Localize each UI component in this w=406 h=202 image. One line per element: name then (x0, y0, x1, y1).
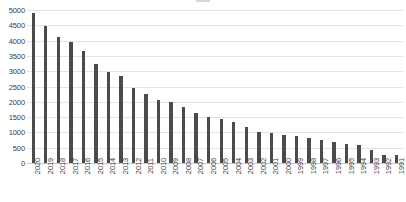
bar[interactable] (182, 107, 185, 163)
x-tick-slot: 2000 (278, 165, 291, 201)
bar-slot (115, 10, 128, 163)
bar-slot (27, 10, 40, 163)
bar[interactable] (157, 100, 160, 163)
bar[interactable] (207, 117, 210, 164)
bar-slot (278, 10, 291, 163)
bar-slot (253, 10, 266, 163)
bar[interactable] (82, 51, 85, 163)
x-tick-slot: 2020 (27, 165, 40, 201)
y-tick-label: 5000 (9, 6, 25, 15)
bar-slot (40, 10, 53, 163)
y-tick-label: 4500 (9, 21, 25, 30)
x-tick-slot: 2009 (165, 165, 178, 201)
x-tick-slot: 2002 (253, 165, 266, 201)
x-tick-slot: 2003 (240, 165, 253, 201)
y-tick-label: 1500 (9, 113, 25, 122)
cropped-title-remnant (196, 0, 210, 2)
bar[interactable] (107, 72, 110, 163)
bar-slot (215, 10, 228, 163)
x-axis: 2020201920182017201620152014201320122011… (27, 165, 403, 201)
y-tick-label: 2000 (9, 97, 25, 106)
x-tick-slot: 2005 (215, 165, 228, 201)
bar[interactable] (132, 88, 135, 163)
x-tick-slot: 2015 (90, 165, 103, 201)
x-tick-slot: 2019 (40, 165, 53, 201)
bar-slot (290, 10, 303, 163)
bar-slot (340, 10, 353, 163)
bar[interactable] (194, 113, 197, 163)
y-tick-label: 500 (13, 143, 25, 152)
x-tick-slot: 2010 (152, 165, 165, 201)
x-tick-slot: 2006 (202, 165, 215, 201)
x-tick-slot: 1991 (390, 165, 403, 201)
y-tick-label: 1000 (9, 128, 25, 137)
bar-slot (390, 10, 403, 163)
bar-chart: 0500100015002000250030003500400045005000… (0, 0, 406, 202)
x-tick-slot: 2004 (228, 165, 241, 201)
bar-slot (177, 10, 190, 163)
y-tick-label: 4000 (9, 36, 25, 45)
bar[interactable] (32, 13, 35, 163)
x-tick-slot: 1998 (303, 165, 316, 201)
bar-slot (240, 10, 253, 163)
x-tick-slot: 2012 (127, 165, 140, 201)
bar-slot (65, 10, 78, 163)
bar-slot (315, 10, 328, 163)
bar-slot (127, 10, 140, 163)
x-tick-slot: 2007 (190, 165, 203, 201)
bar-slot (353, 10, 366, 163)
y-tick-label: 3500 (9, 51, 25, 60)
bars-layer (27, 10, 403, 163)
x-tick-slot: 1994 (353, 165, 366, 201)
x-tick-slot: 1999 (290, 165, 303, 201)
x-tick-slot: 2018 (52, 165, 65, 201)
bar-slot (90, 10, 103, 163)
x-tick-slot: 2017 (65, 165, 78, 201)
x-tick-slot: 2016 (77, 165, 90, 201)
bar[interactable] (57, 37, 60, 163)
bar-slot (328, 10, 341, 163)
x-tick-slot: 1997 (315, 165, 328, 201)
x-tick-label: 1991 (397, 158, 406, 174)
x-tick-slot: 2013 (115, 165, 128, 201)
bar[interactable] (119, 76, 122, 163)
y-tick-label: 0 (21, 159, 25, 168)
bar-slot (190, 10, 203, 163)
bar-slot (365, 10, 378, 163)
x-tick-slot: 1996 (328, 165, 341, 201)
bar-slot (202, 10, 215, 163)
bar-slot (152, 10, 165, 163)
bar-slot (303, 10, 316, 163)
bar-slot (378, 10, 391, 163)
bar-slot (52, 10, 65, 163)
x-tick-slot: 1992 (378, 165, 391, 201)
bar-slot (102, 10, 115, 163)
bar-slot (77, 10, 90, 163)
bar-slot (165, 10, 178, 163)
y-tick-label: 2500 (9, 82, 25, 91)
x-tick-slot: 1995 (340, 165, 353, 201)
y-axis: 0500100015002000250030003500400045005000 (0, 10, 25, 163)
bar[interactable] (69, 42, 72, 163)
bar[interactable] (94, 64, 97, 163)
x-tick-slot: 2001 (265, 165, 278, 201)
bar-slot (228, 10, 241, 163)
bar-slot (140, 10, 153, 163)
x-tick-slot: 2014 (102, 165, 115, 201)
bar[interactable] (220, 119, 223, 163)
x-tick-slot: 2008 (177, 165, 190, 201)
x-tick-slot: 2011 (140, 165, 153, 201)
bar[interactable] (44, 26, 47, 163)
bar-slot (265, 10, 278, 163)
bar[interactable] (144, 94, 147, 163)
x-tick-slot: 1993 (365, 165, 378, 201)
bar[interactable] (169, 102, 172, 163)
y-tick-label: 3000 (9, 67, 25, 76)
